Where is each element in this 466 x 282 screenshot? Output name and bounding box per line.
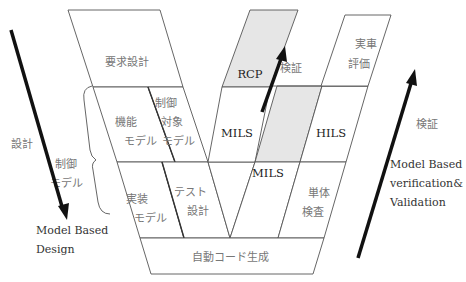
hils-label: HILS bbox=[316, 126, 346, 140]
diagram-canvas: 要求設計 機能 モデル 制御 対象 モデル 実装 モデル テスト 設計 RCP … bbox=[0, 0, 466, 282]
vehicle-evaluation-label-1: 実車 bbox=[355, 37, 377, 51]
requirements-design-block bbox=[68, 10, 183, 87]
verification-arrow-label: 検証 bbox=[416, 117, 438, 131]
unit-test-label-2: 検査 bbox=[302, 205, 324, 219]
plant-model-label-2: 対象 bbox=[161, 115, 183, 129]
implementation-model-label-1: 実装 bbox=[126, 192, 148, 206]
mbd-caption-line-2: Design bbox=[36, 243, 75, 256]
mbv-caption-line-2: verification& bbox=[389, 177, 463, 190]
mbv-caption-line-1: Model Based bbox=[390, 158, 462, 171]
inner-verification-label: 検証 bbox=[280, 61, 302, 75]
v-model-diagram: 要求設計 機能 モデル 制御 対象 モデル 実装 モデル テスト 設計 RCP … bbox=[0, 0, 466, 282]
plant-model-label-3: モデル bbox=[162, 134, 195, 148]
test-design-label-1: テスト bbox=[174, 186, 207, 199]
rcp-label: RCP bbox=[237, 67, 262, 81]
design-arrow-label: 設計 bbox=[11, 137, 33, 151]
implementation-model-label-2: モデル bbox=[134, 211, 167, 225]
functional-model-label-1: 機能 bbox=[115, 115, 137, 129]
mils-lower-label: MILS bbox=[252, 166, 284, 180]
mils-upper-label: MILS bbox=[221, 126, 253, 140]
auto-code-generation-label: 自動コード生成 bbox=[192, 250, 269, 264]
mbd-caption-line-1: Model Based bbox=[36, 224, 108, 237]
test-design-label-2: 設計 bbox=[187, 204, 209, 218]
design-arrowhead-icon bbox=[58, 203, 69, 220]
unit-test-label-1: 単体 bbox=[308, 186, 330, 200]
design-arrow bbox=[11, 30, 63, 210]
verification-arrowhead-icon bbox=[406, 69, 417, 86]
plant-model-label-1: 制御 bbox=[155, 96, 177, 110]
requirements-design-label: 要求設計 bbox=[105, 55, 149, 69]
control-model-label-1: 制御 bbox=[55, 157, 77, 171]
vehicle-evaluation-label-2: 評価 bbox=[348, 57, 370, 71]
functional-model-label-2: モデル bbox=[124, 134, 157, 148]
mbv-caption-line-3: Validation bbox=[389, 196, 446, 209]
